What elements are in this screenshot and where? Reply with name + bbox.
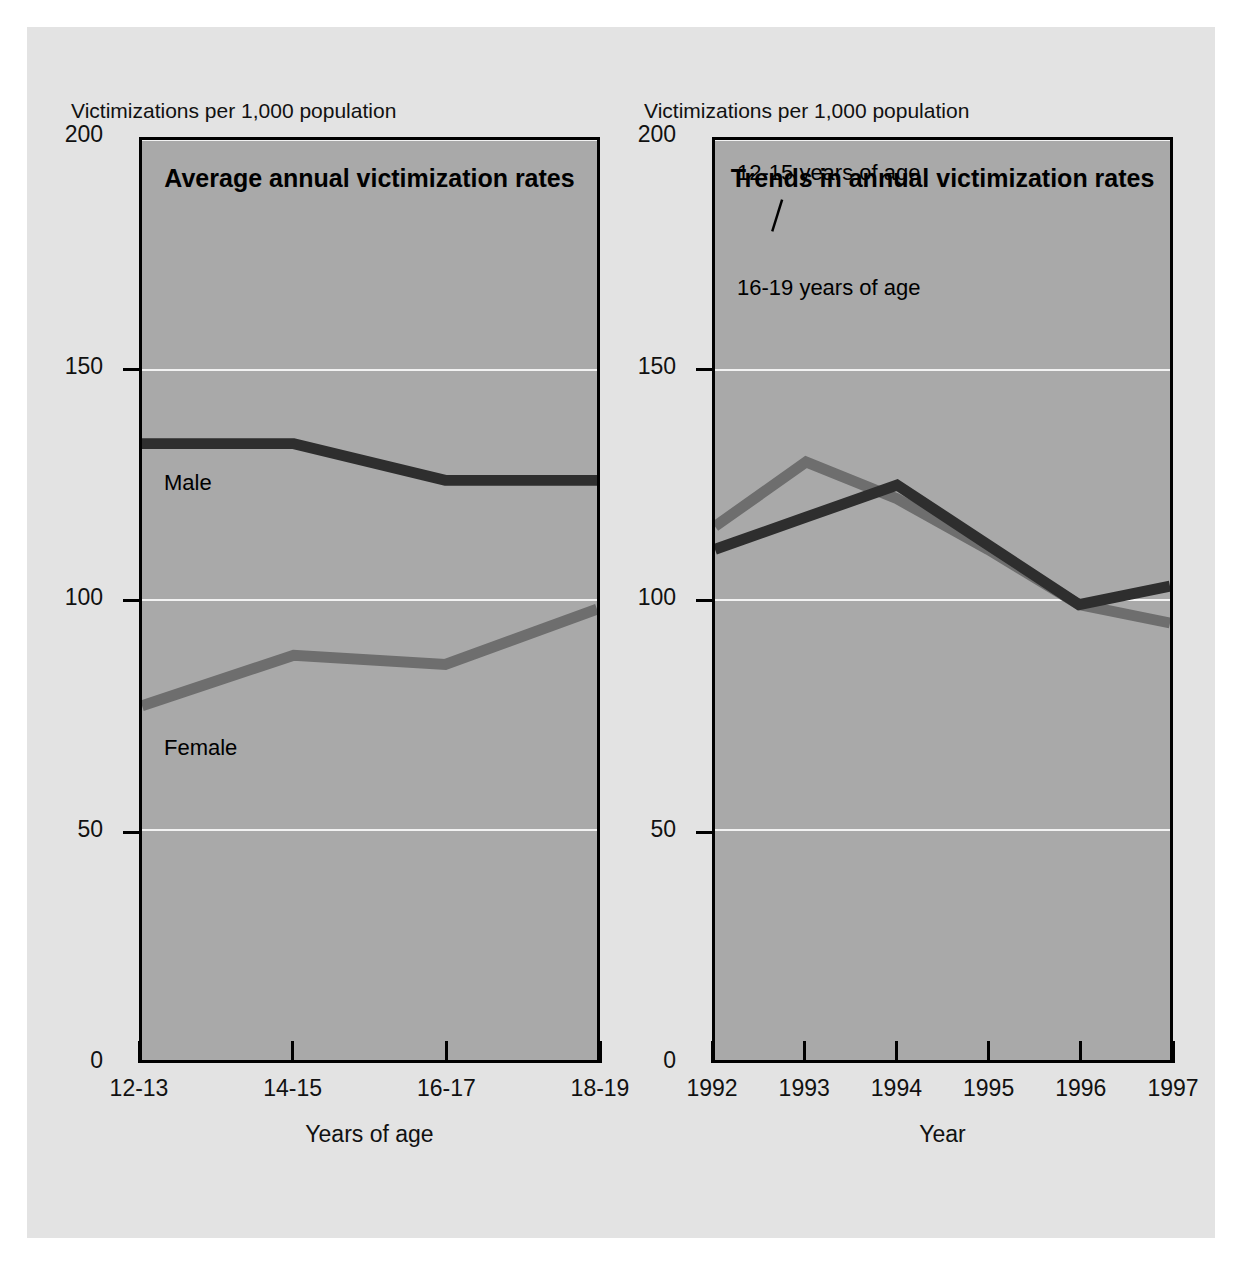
series-line-16-19-years-of-age [715, 485, 1170, 605]
y-tick-label: 50 [650, 816, 676, 843]
series-label-12-15: 12-15 years of age [737, 160, 920, 186]
y-tick-mark [123, 599, 139, 602]
leader-line-12-15 [772, 200, 782, 232]
y-tick-mark [123, 368, 139, 371]
y-axis-caption-left: Victimizations per 1,000 population [71, 99, 396, 123]
plot-title-left: Average annual victimization rates [142, 164, 597, 193]
plot-svg-left [142, 140, 597, 1060]
x-tick-label: 1992 [686, 1075, 737, 1102]
y-tick-label: 0 [663, 1047, 676, 1074]
y-tick-mark [696, 831, 712, 834]
y-tick-label: 200 [638, 121, 676, 148]
x-tick-mark [803, 1041, 806, 1063]
x-tick-label: 16-17 [417, 1075, 476, 1102]
y-tick-label: 200 [65, 121, 103, 148]
y-tick-label: 100 [638, 584, 676, 611]
series-label-16-19: 16-19 years of age [737, 275, 920, 301]
x-axis-title-left: Years of age [139, 1121, 600, 1148]
plot-area-left: Average annual victimization rates Male … [139, 137, 600, 1063]
y-tick-label: 150 [65, 353, 103, 380]
y-tick-mark [696, 368, 712, 371]
x-tick-mark [138, 1041, 141, 1063]
chart-average-annual-victimization-rates: Victimizations per 1,000 population Aver… [71, 27, 637, 1238]
x-tick-mark [987, 1041, 990, 1063]
y-axis-caption-right: Victimizations per 1,000 population [644, 99, 969, 123]
plot-area-right: Trends in annual victimization rates 12-… [712, 137, 1173, 1063]
x-tick-label: 1997 [1147, 1075, 1198, 1102]
gridlines-right [715, 140, 1170, 830]
x-tick-mark [445, 1041, 448, 1063]
x-tick-label: 1995 [963, 1075, 1014, 1102]
x-tick-label: 1994 [871, 1075, 922, 1102]
x-tick-mark [1079, 1041, 1082, 1063]
series-label-male: Male [164, 470, 212, 496]
x-tick-mark [711, 1041, 714, 1063]
x-tick-mark [895, 1041, 898, 1063]
y-tick-mark [123, 831, 139, 834]
x-tick-mark [291, 1041, 294, 1063]
x-tick-label: 1996 [1055, 1075, 1106, 1102]
x-tick-mark [1172, 1041, 1175, 1063]
x-tick-mark [599, 1041, 602, 1063]
figure-panel: Victimizations per 1,000 population Aver… [27, 27, 1215, 1238]
y-tick-mark [696, 599, 712, 602]
x-tick-label: 18-19 [571, 1075, 630, 1102]
x-tick-label: 12-13 [110, 1075, 169, 1102]
x-tick-label: 14-15 [263, 1075, 322, 1102]
y-tick-label: 0 [90, 1047, 103, 1074]
series-label-female: Female [164, 735, 237, 761]
chart-trends-in-annual-victimization-rates: Victimizations per 1,000 population Tren… [644, 27, 1210, 1238]
y-tick-label: 50 [77, 816, 103, 843]
x-axis-title-right: Year [712, 1121, 1173, 1148]
data-lines-right [715, 462, 1170, 623]
y-tick-label: 150 [638, 353, 676, 380]
y-tick-label: 100 [65, 584, 103, 611]
x-tick-label: 1993 [779, 1075, 830, 1102]
series-line-female [142, 609, 597, 706]
